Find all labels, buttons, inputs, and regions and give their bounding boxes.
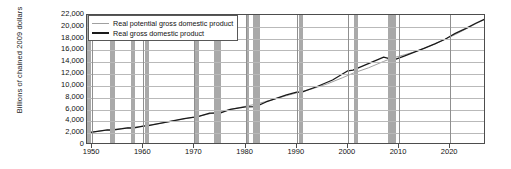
x-tick-mark bbox=[245, 144, 246, 148]
legend-label: Real gross domestic product bbox=[113, 29, 204, 38]
gridline bbox=[87, 121, 484, 122]
x-tick-mark bbox=[142, 144, 143, 148]
vertical-gridline bbox=[399, 15, 400, 143]
gridline bbox=[87, 74, 484, 75]
legend-label: Real potential gross domestic product bbox=[113, 19, 233, 28]
x-tick-label: 1950 bbox=[71, 147, 111, 156]
x-tick-label: 1980 bbox=[225, 147, 265, 156]
x-tick-mark bbox=[91, 144, 92, 148]
recession-band bbox=[388, 15, 396, 143]
x-tick-label: 2000 bbox=[327, 147, 367, 156]
gridline bbox=[87, 110, 484, 111]
legend-line-swatch bbox=[92, 23, 109, 24]
vertical-gridline bbox=[450, 15, 451, 143]
x-tick-mark bbox=[347, 144, 348, 148]
gridline bbox=[87, 62, 484, 63]
x-tick-mark bbox=[449, 144, 450, 148]
gdp-chart-figure: Billions of chained 2009 dollars 22,0002… bbox=[0, 0, 511, 169]
x-tick-label: 2010 bbox=[378, 147, 418, 156]
recession-band bbox=[354, 15, 358, 143]
legend-item: Real gross domestic product bbox=[92, 28, 233, 38]
legend-item: Real potential gross domestic product bbox=[92, 18, 233, 28]
gridline bbox=[87, 50, 484, 51]
legend-line-swatch bbox=[92, 32, 109, 34]
x-tick-label: 1990 bbox=[276, 147, 316, 156]
x-tick-label: 1960 bbox=[122, 147, 162, 156]
x-tick-label: 1970 bbox=[173, 147, 213, 156]
gridline bbox=[87, 133, 484, 134]
x-tick-label: 2020 bbox=[429, 147, 469, 156]
chart-legend: Real potential gross domestic productRea… bbox=[88, 15, 238, 41]
x-tick-mark bbox=[193, 144, 194, 148]
gridline bbox=[87, 98, 484, 99]
x-tick-mark bbox=[398, 144, 399, 148]
recession-band bbox=[299, 15, 303, 143]
gridline bbox=[87, 86, 484, 87]
vertical-gridline bbox=[246, 15, 247, 143]
x-tick-mark bbox=[296, 144, 297, 148]
vertical-gridline bbox=[297, 15, 298, 143]
vertical-gridline bbox=[348, 15, 349, 143]
recession-band bbox=[253, 15, 260, 143]
